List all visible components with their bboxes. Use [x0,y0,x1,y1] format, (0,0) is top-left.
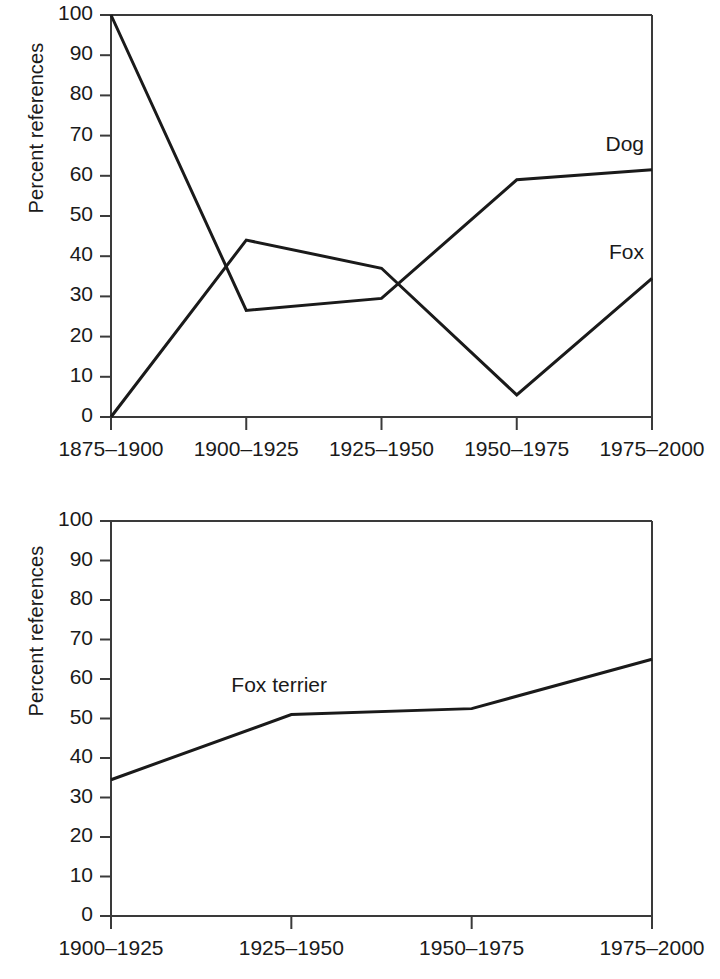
bottom-chart-x-tick-label: 1900–1925 [31,936,191,960]
top-chart-y-tick-label: 90 [70,41,93,65]
bottom-chart-y-tick-label: 50 [70,705,93,729]
bottom-chart-y-tick-label: 30 [70,784,93,808]
bottom-chart-series-label: Fox terrier [231,673,327,697]
top-chart-y-tick-label: 10 [70,363,93,387]
bottom-chart-x-tick-label: 1925–1950 [211,936,371,960]
bottom-chart-y-tick-label: 10 [70,863,93,887]
bottom-chart-y-tick-label: 90 [70,547,93,571]
top-chart-y-tick-label: 20 [70,323,93,347]
chart-panel-top: Percent references 010203040506070809010… [0,0,720,470]
bottom-chart-y-tick-label: 60 [70,665,93,689]
bottom-chart-y-tick-label: 40 [70,744,93,768]
bottom-chart-x-tick-label: 1975–2000 [572,936,720,960]
top-chart-series-label: Fox [609,240,644,264]
bottom-chart-y-tick-label: 20 [70,823,93,847]
two-panel-line-chart-figure: Percent references 010203040506070809010… [0,0,720,979]
top-chart-y-tick-label: 40 [70,242,93,266]
top-chart-x-tick-label: 1975–2000 [572,437,720,461]
chart-panel-bottom: Percent references 010203040506070809010… [0,500,720,979]
top-chart-y-tick-label: 50 [70,202,93,226]
bottom-chart-y-tick-label: 100 [58,507,93,531]
top-chart-y-tick-label: 70 [70,122,93,146]
top-chart-y-tick-label: 80 [70,81,93,105]
top-chart-y-tick-label: 60 [70,162,93,186]
bottom-chart-x-tick-label: 1950–1975 [392,936,552,960]
top-chart-y-tick-label: 0 [81,403,93,427]
bottom-chart-y-tick-label: 0 [81,902,93,926]
bottom-chart-plot-area [0,500,720,979]
top-chart-y-tick-label: 30 [70,282,93,306]
bottom-chart-y-tick-label: 70 [70,626,93,650]
top-chart-series-label: Dog [605,132,644,156]
top-chart-plot-area [0,0,720,470]
top-chart-y-tick-label: 100 [58,1,93,25]
bottom-chart-y-tick-label: 80 [70,586,93,610]
